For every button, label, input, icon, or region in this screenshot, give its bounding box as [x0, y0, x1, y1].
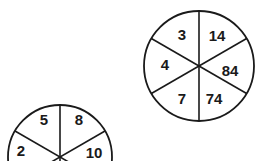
segment-left: 4 — [161, 56, 170, 73]
segment-bottom-left: 7 — [178, 90, 186, 107]
segment-top-right: 14 — [209, 27, 226, 44]
segment-top-left: 5 — [40, 111, 48, 128]
segment-top-left: 3 — [178, 26, 186, 43]
wheel-bottom-left: 5 8 2 10 — [8, 105, 112, 161]
segment-right: 10 — [86, 144, 103, 161]
segment-right: 84 — [222, 62, 239, 79]
segment-left: 2 — [17, 142, 25, 159]
puzzle-canvas: 3 14 4 84 7 74 5 8 2 10 — [0, 0, 264, 161]
segment-bottom-right: 74 — [206, 90, 223, 107]
segment-top-right: 8 — [75, 111, 83, 128]
wheel-top-right: 3 14 4 84 7 74 — [144, 11, 254, 121]
